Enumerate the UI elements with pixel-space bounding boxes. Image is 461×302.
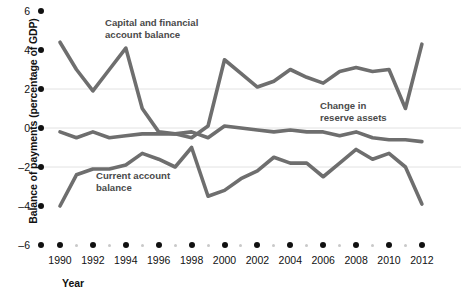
y-tick: 0 <box>0 122 44 134</box>
x-tick-dot <box>189 242 195 248</box>
x-tick-dot <box>156 242 162 248</box>
y-tick-label: –2 <box>18 161 30 173</box>
x-tick-dot-minor <box>75 244 78 247</box>
series-line-capital-and-financial-account-balance <box>60 42 422 138</box>
y-tick-dot <box>38 203 44 209</box>
y-tick: 6 <box>0 5 44 17</box>
y-tick-label: 4 <box>24 44 30 56</box>
y-tick-label: 0 <box>24 122 30 134</box>
y-tick-dot <box>38 242 44 248</box>
x-tick-dot-minor <box>404 244 407 247</box>
x-tick-dot <box>57 242 63 248</box>
x-axis-title: Year <box>62 277 84 289</box>
chart-figure: Balance of payments (percentage of GDP) … <box>0 0 461 302</box>
series-label-capital-and-financial-account-balance: Capital and financial account balance <box>105 17 198 40</box>
y-tick-label: –4 <box>18 200 30 212</box>
x-tick-dot-minor <box>207 244 210 247</box>
x-tick-dot-minor <box>174 244 177 247</box>
x-tick-dot-minor <box>108 244 111 247</box>
x-tick-dot <box>386 242 392 248</box>
series-label-change-in-reserve-assets: Change in reserve assets <box>320 100 387 123</box>
x-tick-dot-minor <box>305 244 308 247</box>
x-tick-dot <box>222 242 228 248</box>
y-tick: –2 <box>0 161 44 173</box>
y-tick: –6 <box>0 239 44 251</box>
y-tick: –4 <box>0 200 44 212</box>
x-tick-dot <box>90 242 96 248</box>
x-tick-dot-minor <box>141 244 144 247</box>
y-tick-dot <box>38 125 44 131</box>
y-tick-label: 6 <box>24 5 30 17</box>
y-tick-dot <box>38 8 44 14</box>
x-tick-dot-minor <box>371 244 374 247</box>
y-tick-dot <box>38 47 44 53</box>
y-tick-dot <box>38 86 44 92</box>
y-tick-label: 2 <box>24 83 30 95</box>
x-tick-dot-minor <box>338 244 341 247</box>
x-tick-dot <box>123 242 129 248</box>
x-tick-label: 2012 <box>402 254 442 266</box>
y-tick-dot <box>38 164 44 170</box>
y-tick-label: –6 <box>18 239 30 251</box>
y-tick: 2 <box>0 83 44 95</box>
series-label-current-account-balance: Current account balance <box>96 170 170 193</box>
y-tick: 4 <box>0 44 44 56</box>
x-tick-dot <box>419 242 425 248</box>
